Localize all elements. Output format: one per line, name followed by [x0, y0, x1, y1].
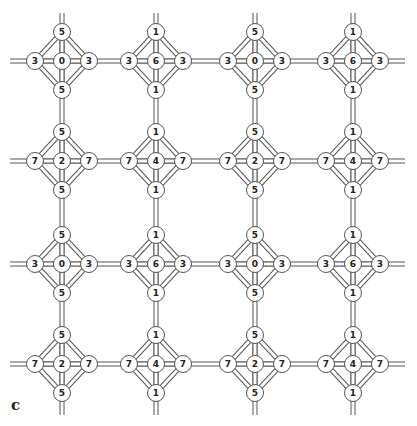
- node-label: 5: [59, 185, 65, 195]
- node-top: 5: [54, 227, 71, 244]
- node-bottom: 1: [345, 82, 362, 99]
- node-label: 7: [279, 156, 285, 166]
- node-right: 3: [81, 53, 98, 70]
- node-label: 1: [350, 185, 356, 195]
- node-left: 7: [27, 153, 44, 170]
- node-center: 4: [345, 153, 362, 170]
- node-center: 4: [345, 356, 362, 373]
- node-top: 5: [247, 24, 264, 41]
- octahedral-unit: 13631: [318, 24, 389, 99]
- node-label: 5: [252, 388, 258, 398]
- node-label: 4: [350, 359, 356, 369]
- node-label: 4: [350, 156, 356, 166]
- node-top: 5: [247, 327, 264, 344]
- node-bottom: 1: [148, 82, 165, 99]
- node-right: 3: [175, 256, 192, 273]
- node-label: 0: [252, 259, 258, 269]
- node-label: 7: [225, 156, 231, 166]
- node-label: 7: [126, 156, 132, 166]
- node-label: 3: [323, 56, 329, 66]
- node-label: 0: [59, 56, 65, 66]
- node-label: 7: [225, 359, 231, 369]
- node-label: 4: [153, 156, 159, 166]
- node-label: 6: [153, 56, 159, 66]
- node-right: 3: [175, 53, 192, 70]
- node-left: 3: [27, 53, 44, 70]
- node-label: 5: [59, 127, 65, 137]
- node-top: 5: [247, 227, 264, 244]
- node-label: 7: [86, 359, 92, 369]
- node-label: 3: [32, 56, 38, 66]
- node-label: 7: [323, 359, 329, 369]
- node-bottom: 5: [247, 82, 264, 99]
- node-left: 7: [121, 356, 138, 373]
- node-label: 6: [350, 259, 356, 269]
- node-center: 0: [247, 53, 264, 70]
- node-bottom: 1: [345, 182, 362, 199]
- node-label: 5: [252, 230, 258, 240]
- node-bottom: 5: [54, 182, 71, 199]
- node-label: 1: [153, 230, 159, 240]
- node-bottom: 5: [54, 82, 71, 99]
- node-label: 7: [377, 359, 383, 369]
- node-label: 2: [252, 156, 258, 166]
- octahedral-units: 5303513631530351363157275174715727517471…: [27, 24, 389, 402]
- node-label: 5: [252, 85, 258, 95]
- node-label: 3: [32, 259, 38, 269]
- node-center: 6: [148, 256, 165, 273]
- octahedral-unit: 17471: [318, 124, 389, 199]
- node-label: 3: [86, 259, 92, 269]
- node-center: 4: [148, 153, 165, 170]
- node-label: 0: [252, 56, 258, 66]
- node-label: 3: [86, 56, 92, 66]
- node-label: 5: [59, 388, 65, 398]
- octahedral-unit: 53035: [220, 24, 291, 99]
- octahedral-unit: 13631: [121, 227, 192, 302]
- node-center: 0: [247, 256, 264, 273]
- node-left: 3: [318, 53, 335, 70]
- node-center: 2: [54, 153, 71, 170]
- node-left: 3: [121, 256, 138, 273]
- node-top: 1: [148, 327, 165, 344]
- node-label: 3: [180, 259, 186, 269]
- octahedral-unit: 57275: [27, 124, 98, 199]
- node-right: 7: [81, 153, 98, 170]
- node-label: 1: [153, 288, 159, 298]
- node-center: 2: [54, 356, 71, 373]
- node-center: 4: [148, 356, 165, 373]
- node-label: 5: [252, 330, 258, 340]
- node-top: 1: [345, 24, 362, 41]
- node-right: 3: [81, 256, 98, 273]
- node-center: 6: [345, 256, 362, 273]
- lattice-svg: 5303513631530351363157275174715727517471…: [0, 0, 417, 426]
- node-center: 6: [345, 53, 362, 70]
- node-bottom: 5: [247, 182, 264, 199]
- node-label: 7: [180, 359, 186, 369]
- octahedral-unit: 57275: [220, 327, 291, 402]
- node-center: 0: [54, 53, 71, 70]
- node-left: 7: [220, 356, 237, 373]
- node-top: 5: [54, 327, 71, 344]
- node-bottom: 1: [148, 385, 165, 402]
- panel-label: c: [11, 396, 20, 414]
- node-top: 1: [148, 24, 165, 41]
- node-label: 1: [350, 127, 356, 137]
- node-bottom: 1: [345, 285, 362, 302]
- node-label: 3: [323, 259, 329, 269]
- node-bottom: 1: [345, 385, 362, 402]
- node-label: 3: [225, 56, 231, 66]
- node-label: 4: [153, 359, 159, 369]
- node-label: 7: [86, 156, 92, 166]
- node-label: 2: [252, 359, 258, 369]
- node-label: 7: [279, 359, 285, 369]
- node-label: 3: [225, 259, 231, 269]
- octahedral-unit: 53035: [220, 227, 291, 302]
- node-label: 1: [350, 85, 356, 95]
- octahedral-unit: 53035: [27, 24, 98, 99]
- node-label: 5: [59, 27, 65, 37]
- node-label: 1: [153, 85, 159, 95]
- node-label: 7: [180, 156, 186, 166]
- octahedral-unit: 13631: [121, 24, 192, 99]
- node-right: 3: [274, 53, 291, 70]
- node-center: 2: [247, 356, 264, 373]
